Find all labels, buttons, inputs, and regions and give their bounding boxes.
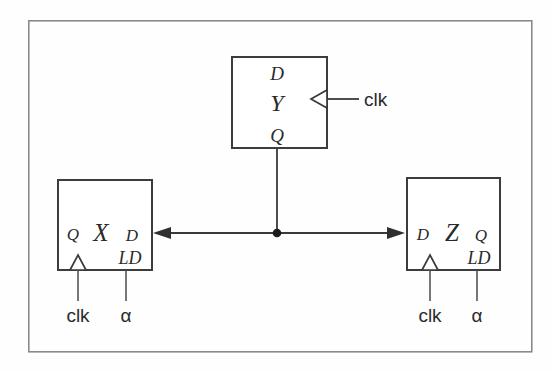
arrowhead-to-x-d — [153, 227, 171, 239]
block-z-pin-d-label: D — [416, 225, 430, 244]
block-z-pin-q-label: Q — [475, 226, 487, 245]
block-x-name-label: X — [92, 219, 110, 246]
interconnect-bus — [153, 148, 405, 239]
diagram-canvas: D Y Q clk Q X D LD clk α — [0, 0, 552, 371]
block-z[interactable]: D Z Q LD clk α — [407, 178, 500, 326]
block-x-pin-ld-label: LD — [117, 248, 141, 268]
arrowhead-to-z-d — [387, 227, 405, 239]
register-block-diagram: D Y Q clk Q X D LD clk α — [0, 0, 552, 371]
block-z-pin-ld-label: LD — [466, 248, 490, 268]
block-x-pin-d-label: D — [125, 226, 139, 245]
block-x-clk-label: clk — [66, 305, 90, 326]
block-z-clk-label: clk — [418, 305, 442, 326]
block-z-alpha-label: α — [472, 305, 483, 326]
block-x[interactable]: Q X D LD clk α — [58, 180, 152, 326]
block-y-pin-d-label: D — [269, 63, 284, 84]
block-x-pin-q-label: Q — [67, 225, 79, 244]
block-y[interactable]: D Y Q clk — [232, 57, 388, 148]
wire-junction-dot — [273, 229, 282, 238]
block-z-name-label: Z — [445, 219, 460, 246]
block-x-alpha-label: α — [121, 305, 132, 326]
block-y-clk-label: clk — [364, 89, 388, 110]
block-y-pin-q-label: Q — [270, 125, 284, 146]
